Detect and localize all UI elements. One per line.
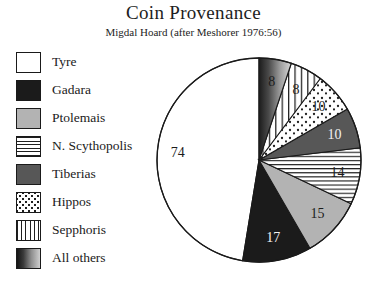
swatch-sepphoris bbox=[16, 220, 41, 241]
swatch-tiberias bbox=[16, 164, 41, 185]
legend-item[interactable]: Tyre bbox=[16, 48, 166, 76]
legend-item-label: N. Scythopolis bbox=[52, 139, 132, 153]
swatch-n-scythopolis bbox=[16, 136, 41, 157]
legend-item[interactable]: Sepphoris bbox=[16, 216, 166, 244]
legend-item-label: Tiberias bbox=[52, 167, 96, 181]
pie-slice[interactable] bbox=[259, 148, 361, 204]
pie-slice[interactable] bbox=[157, 58, 259, 261]
pie-slice-value: 14 bbox=[331, 166, 345, 180]
legend-item[interactable]: All others bbox=[16, 244, 166, 272]
pie-slice-value: 10 bbox=[312, 100, 326, 114]
pie-slice[interactable] bbox=[259, 63, 320, 160]
chart-page: Coin Provenance Migdal Hoard (after Mesh… bbox=[0, 0, 387, 288]
legend-item-label: Gadara bbox=[52, 83, 91, 97]
legend-item[interactable]: N. Scythopolis bbox=[16, 132, 166, 160]
chart-subtitle: Migdal Hoard (after Meshorer 1976:56) bbox=[0, 26, 387, 38]
pie-slice[interactable] bbox=[243, 160, 310, 262]
swatch-tyre bbox=[16, 52, 41, 73]
pie-slice-value: 74 bbox=[171, 146, 185, 160]
swatch-ptolemais bbox=[16, 108, 41, 129]
swatch-gadara bbox=[16, 80, 41, 101]
legend-item-label: Tyre bbox=[52, 55, 77, 69]
legend: TyreGadaraPtolemaisN. ScythopolisTiberia… bbox=[16, 48, 166, 272]
pie-slice[interactable] bbox=[259, 160, 351, 248]
pie-slice-value: 8 bbox=[268, 75, 275, 89]
swatch-hippos bbox=[16, 192, 41, 213]
pie-slice-value: 15 bbox=[311, 207, 325, 221]
pie-slice[interactable] bbox=[259, 78, 347, 160]
legend-item-label: All others bbox=[52, 251, 106, 265]
legend-item[interactable]: Gadara bbox=[16, 76, 166, 104]
legend-item-label: Hippos bbox=[52, 195, 91, 209]
legend-item[interactable]: Hippos bbox=[16, 188, 166, 216]
pie-slice[interactable] bbox=[259, 58, 291, 160]
legend-item-label: Ptolemais bbox=[52, 111, 105, 125]
pie-slice[interactable] bbox=[259, 109, 360, 160]
legend-item[interactable]: Tiberias bbox=[16, 160, 166, 188]
pie-outline bbox=[157, 58, 361, 262]
pie-slice-value: 8 bbox=[293, 83, 300, 97]
pie-slice-value: 17 bbox=[266, 231, 280, 245]
page-title: Coin Provenance bbox=[0, 2, 387, 24]
legend-item[interactable]: Ptolemais bbox=[16, 104, 166, 132]
swatch-all-others bbox=[16, 248, 41, 269]
legend-item-label: Sepphoris bbox=[52, 223, 106, 237]
pie-slice-value: 10 bbox=[328, 128, 342, 142]
